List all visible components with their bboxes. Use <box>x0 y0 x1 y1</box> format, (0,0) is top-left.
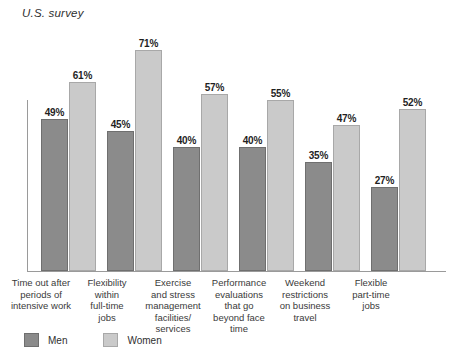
category-label-0: Time out afterperiods ofintensive work <box>3 277 79 312</box>
bar-value-label: 45% <box>111 119 131 130</box>
legend-swatch-men-icon <box>24 333 39 347</box>
bar-women[interactable]: 52% <box>399 109 426 271</box>
bar-value-label: 27% <box>375 175 395 186</box>
bar-value-label: 49% <box>45 107 65 118</box>
bar-chart: U.S. survey 49% 61% 45% 71% 40% <box>0 0 464 359</box>
x-axis-line <box>27 271 446 272</box>
bar-women[interactable]: 55% <box>267 100 294 271</box>
bar-men[interactable]: 27% <box>371 187 398 271</box>
bar-women[interactable]: 57% <box>201 94 228 271</box>
bar-value-label: 52% <box>403 97 423 108</box>
category-label-2: Exerciseand stressmanagementfacilities/s… <box>135 277 211 335</box>
bar-men[interactable]: 49% <box>41 119 68 271</box>
chart-title: U.S. survey <box>22 7 84 19</box>
bar-value-label: 55% <box>271 88 291 99</box>
legend-label-women: Women <box>127 335 161 346</box>
bar-men[interactable]: 40% <box>173 147 200 271</box>
bar-men[interactable]: 40% <box>239 147 266 271</box>
bar-value-label: 57% <box>205 82 225 93</box>
category-label-5: Flexiblepart-timejobs <box>333 277 409 312</box>
legend-item-men[interactable]: Men <box>24 333 67 347</box>
y-axis-line <box>27 100 28 272</box>
bar-women[interactable]: 47% <box>333 125 360 271</box>
bar-value-label: 35% <box>309 150 329 161</box>
category-label-4: Weekendrestrictionson businesstravel <box>267 277 343 323</box>
chart-legend: Men Women <box>24 333 198 347</box>
legend-label-men: Men <box>48 335 67 346</box>
category-label-1: Flexibilitywithinfull-timejobs <box>69 277 145 323</box>
bar-value-label: 40% <box>243 135 263 146</box>
bar-men[interactable]: 35% <box>305 162 332 271</box>
bar-value-label: 47% <box>337 113 357 124</box>
legend-swatch-women-icon <box>103 333 118 347</box>
category-label-3: Performanceevaluationsthat gobeyond face… <box>201 277 277 335</box>
legend-item-women[interactable]: Women <box>103 333 161 347</box>
bar-value-label: 40% <box>177 135 197 146</box>
bar-men[interactable]: 45% <box>107 131 134 271</box>
bar-women[interactable]: 71% <box>135 50 162 271</box>
bar-value-label: 61% <box>73 70 93 81</box>
bar-value-label: 71% <box>139 38 159 49</box>
bar-women[interactable]: 61% <box>69 82 96 272</box>
plot-area: 49% 61% 45% 71% 40% 57% <box>27 38 446 272</box>
